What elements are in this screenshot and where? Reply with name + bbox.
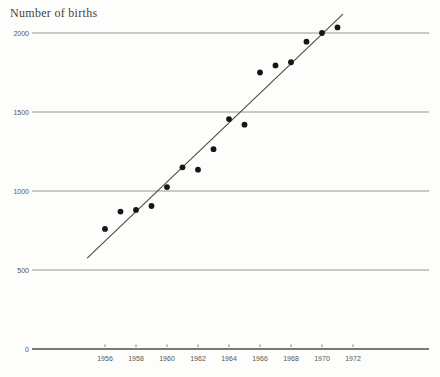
x-tick-label: 1958	[128, 355, 144, 362]
y-tick-label: 1000	[13, 188, 29, 195]
births-scatter-figure: Number of births 05001000150020001956195…	[0, 0, 440, 377]
data-point	[288, 59, 294, 65]
trend-line	[87, 14, 343, 258]
data-point	[195, 167, 201, 173]
data-point	[319, 30, 325, 36]
data-point	[257, 70, 263, 76]
x-tick-label: 1972	[345, 355, 361, 362]
data-point	[226, 116, 232, 122]
data-point	[211, 146, 217, 152]
data-point	[149, 203, 155, 209]
x-tick-label: 1964	[221, 355, 237, 362]
x-tick-label: 1968	[283, 355, 299, 362]
data-point	[102, 226, 108, 232]
data-point	[180, 164, 186, 170]
x-tick-label: 1960	[159, 355, 175, 362]
y-tick-label: 2000	[13, 30, 29, 37]
data-point	[118, 209, 124, 215]
x-tick-label: 1970	[314, 355, 330, 362]
y-tick-label: 0	[25, 346, 29, 353]
data-point	[133, 207, 139, 213]
data-point	[335, 25, 341, 31]
data-point	[164, 184, 170, 190]
x-tick-label: 1962	[190, 355, 206, 362]
x-tick-label: 1966	[252, 355, 268, 362]
data-point	[304, 39, 310, 45]
chart-canvas: 0500100015002000195619581960196219641966…	[0, 0, 440, 377]
data-point	[242, 122, 248, 128]
y-tick-label: 500	[17, 267, 29, 274]
data-point	[273, 62, 279, 68]
y-tick-label: 1500	[13, 109, 29, 116]
x-tick-label: 1956	[97, 355, 113, 362]
